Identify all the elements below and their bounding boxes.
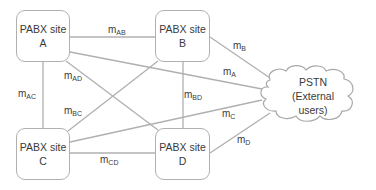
label-m-d: mD (237, 134, 250, 146)
label-m-bc: mBC (64, 105, 82, 117)
node-c-line2: C (39, 154, 47, 168)
node-pabx-site-d: PABX site D (155, 128, 210, 180)
label-m-bd: mBD (184, 89, 202, 101)
node-pabx-site-b: PABX site B (155, 10, 210, 62)
label-m-cd: mCD (100, 154, 118, 166)
node-b-line1: PABX site (159, 22, 206, 36)
node-d-line1: PABX site (159, 140, 206, 154)
label-m-c: mC (222, 108, 235, 120)
edge-d-pstn (210, 113, 270, 153)
node-b-line2: B (179, 36, 186, 50)
pstn-line3: users) (280, 103, 346, 117)
label-m-ab: mAB (108, 24, 126, 36)
pstn-line1: PSTN (280, 75, 346, 89)
label-m-b: mB (233, 40, 246, 52)
node-pabx-site-a: PABX site A (16, 10, 70, 62)
pstn-label: PSTN (External users) (280, 75, 346, 117)
node-c-line1: PABX site (20, 140, 67, 154)
label-m-a: mA (223, 66, 236, 78)
pstn-line2: (External (280, 89, 346, 103)
label-m-ad: mAD (64, 70, 82, 82)
node-a-line1: PABX site (20, 22, 67, 36)
node-pabx-site-c: PABX site C (16, 128, 70, 180)
node-a-line2: A (39, 36, 46, 50)
label-m-ac: mAC (18, 88, 36, 100)
node-d-line2: D (179, 154, 187, 168)
